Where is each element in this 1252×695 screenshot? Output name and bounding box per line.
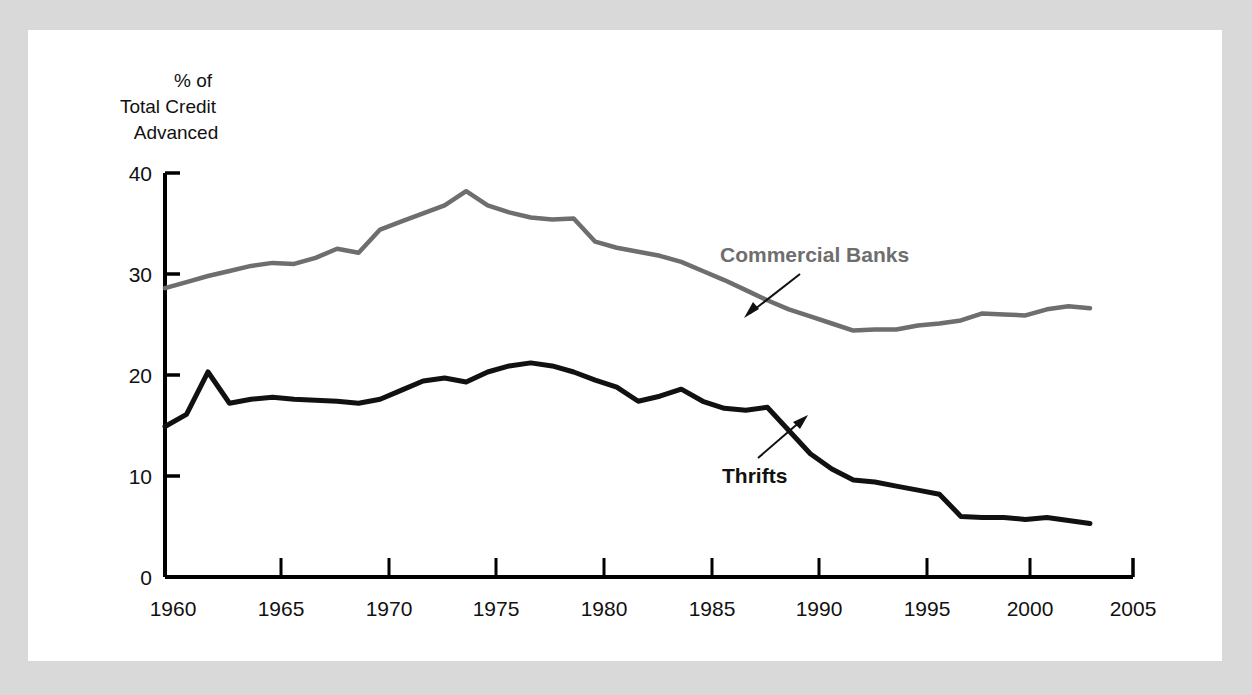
annotation-commercial-banks: Commercial Banks bbox=[720, 243, 909, 318]
x-tick-label-1975: 1975 bbox=[473, 597, 520, 620]
x-tick-label-1965: 1965 bbox=[258, 597, 305, 620]
axis-title-line-2: Total Credit bbox=[120, 96, 217, 117]
series-label-commercial-banks: Commercial Banks bbox=[720, 243, 909, 266]
x-tick-label-2005: 2005 bbox=[1110, 597, 1157, 620]
axis-title-line-3: Advanced bbox=[134, 122, 219, 143]
y-tick-label-40: 40 bbox=[129, 162, 152, 185]
y-axis: 40 30 20 10 0 bbox=[129, 162, 180, 589]
y-tick-label-20: 20 bbox=[129, 364, 152, 387]
x-tick-label-1990: 1990 bbox=[796, 597, 843, 620]
x-tick-label-1995: 1995 bbox=[904, 597, 951, 620]
y-tick-label-0: 0 bbox=[140, 566, 152, 589]
x-axis: 1960 1965 1970 1975 1980 1985 1990 1995 … bbox=[150, 558, 1157, 620]
x-tick-label-1970: 1970 bbox=[366, 597, 413, 620]
screenshot-root: % of Total Credit Advanced 40 30 20 10 0 bbox=[0, 0, 1252, 695]
series-line-commercial-banks bbox=[165, 191, 1090, 330]
x-tick-label-1980: 1980 bbox=[581, 597, 628, 620]
chart-panel: % of Total Credit Advanced 40 30 20 10 0 bbox=[28, 30, 1222, 661]
x-tick-label-1960: 1960 bbox=[150, 597, 197, 620]
x-axis-ticks bbox=[281, 558, 1133, 577]
annotation-thrifts: Thrifts bbox=[722, 415, 808, 487]
series-line-thrifts bbox=[165, 363, 1090, 524]
credit-share-line-chart: % of Total Credit Advanced 40 30 20 10 0 bbox=[28, 30, 1222, 661]
y-tick-label-30: 30 bbox=[129, 263, 152, 286]
x-tick-label-1985: 1985 bbox=[689, 597, 736, 620]
y-axis-ticks bbox=[165, 173, 180, 476]
axis-title-line-1: % of bbox=[174, 70, 213, 91]
series-label-thrifts: Thrifts bbox=[722, 464, 787, 487]
y-tick-label-10: 10 bbox=[129, 465, 152, 488]
x-tick-label-2000: 2000 bbox=[1007, 597, 1054, 620]
